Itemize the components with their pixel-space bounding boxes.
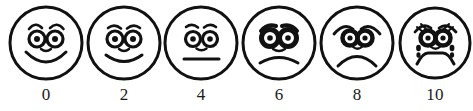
face-label-6: 6 [240, 84, 318, 106]
faces-pain-rating-scale: 0 2 [0, 0, 473, 111]
face-label-4: 4 [162, 84, 240, 106]
face-option-0[interactable]: 0 [7, 0, 85, 111]
face-option-4[interactable]: 4 [162, 0, 240, 111]
face-label-8: 8 [318, 84, 396, 106]
face-label-0: 0 [7, 84, 85, 106]
happy-face-icon [7, 2, 85, 84]
face-option-2[interactable]: 2 [85, 0, 163, 111]
face-option-8[interactable]: 8 [318, 0, 396, 111]
crying-face-icon [396, 2, 473, 84]
face-option-6[interactable]: 6 [240, 0, 318, 111]
worried-face-icon [240, 2, 318, 84]
face-option-10[interactable]: 10 [396, 0, 473, 111]
sad-face-icon [318, 2, 396, 84]
neutral-face-icon [162, 2, 240, 84]
face-label-2: 2 [85, 84, 163, 106]
face-label-10: 10 [396, 84, 473, 106]
slightly-happy-face-icon [85, 2, 163, 84]
